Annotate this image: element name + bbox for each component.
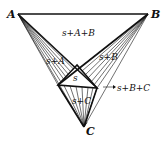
region-label-s: s [73,73,78,83]
vertex-label-a: A [6,8,16,21]
tie-lines-b [80,14,149,88]
region-label-s-a: s+A [46,56,65,66]
ternary-diagram: A B C s+A+B s+A s+B s s+B+C s+C [0,0,167,145]
region-label-s-b-c: s+B+C [117,83,150,93]
tie-lines-a [18,14,74,85]
region-label-s-c: s+C [72,96,91,106]
vertex-label-b: B [150,8,160,21]
region-label-s-a-b: s+A+B [62,28,95,38]
vertex-label-c: C [86,125,95,138]
region-label-s-b: s+B [99,52,118,62]
pointer-arrow-icon [113,85,116,89]
